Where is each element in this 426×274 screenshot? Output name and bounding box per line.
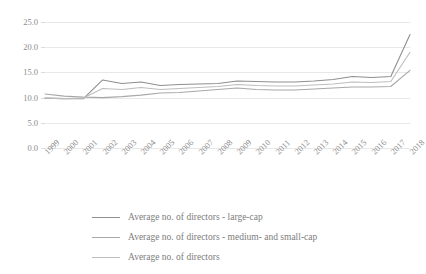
y-axis: 0.05.010.015.020.025.0	[0, 0, 45, 170]
y-axis-tick-label: 0.0	[27, 144, 38, 153]
series-line	[45, 70, 410, 97]
series-layer	[45, 22, 410, 148]
legend-item[interactable]: Average no. of directors - medium- and s…	[92, 227, 392, 247]
y-axis-tick-label: 15.0	[23, 68, 38, 77]
legend-item-label: Average no. of directors	[128, 252, 220, 262]
legend-line-swatch	[92, 237, 120, 238]
legend-item[interactable]: Average no. of directors	[92, 247, 392, 267]
legend-item[interactable]: Average no. of directors - large-cap	[92, 207, 392, 227]
legend-item-label: Average no. of directors - medium- and s…	[128, 232, 317, 242]
y-axis-tick-label: 25.0	[23, 18, 38, 27]
y-axis-tick-label: 5.0	[27, 119, 38, 128]
y-axis-tick-label: 10.0	[23, 94, 38, 103]
legend-line-swatch	[92, 217, 120, 218]
series-line	[45, 52, 410, 98]
x-axis: 1999200020012002200320042005200620072008…	[45, 150, 410, 200]
plot-area	[45, 22, 410, 148]
y-axis-tick-label: 20.0	[23, 43, 38, 52]
chart-legend: Average no. of directors - large-capAver…	[92, 207, 392, 267]
x-axis-tick-label: 2018	[408, 138, 426, 156]
legend-line-swatch	[92, 257, 120, 258]
legend-item-label: Average no. of directors - large-cap	[128, 212, 263, 222]
